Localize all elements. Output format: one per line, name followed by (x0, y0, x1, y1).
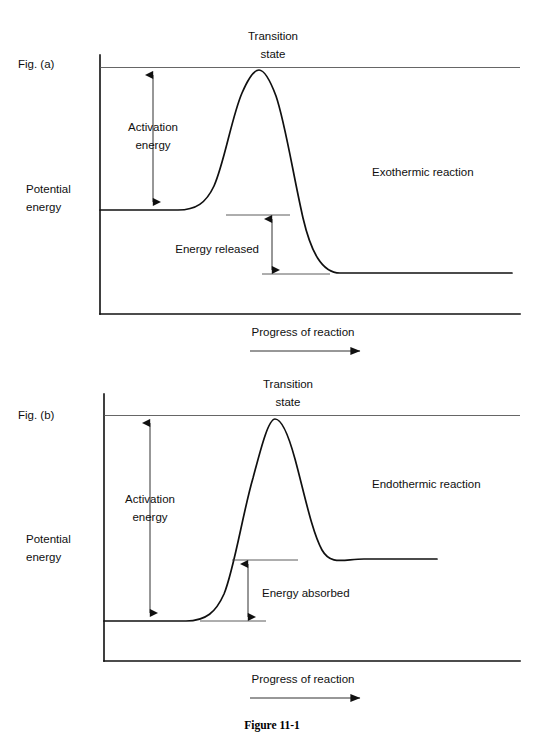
panel-a-activation-energy-label-line2: energy (135, 139, 170, 151)
panel-a-y-axis-label-line2: energy (26, 201, 61, 213)
panel-b-reaction-type-label: Endothermic reaction (372, 478, 481, 490)
panel-a-transition-state-label-line2: state (261, 48, 286, 60)
panel-b-activation-energy-label-line1: Activation (125, 493, 175, 505)
panel-b-y-axis-label-line1: Potential (26, 533, 71, 545)
potential-energy-diagram: Fig. (a) Transition state Activation ene… (0, 0, 545, 745)
figure-container: Fig. (a) Transition state Activation ene… (0, 0, 545, 745)
panel-a-label: Fig. (a) (18, 58, 55, 70)
panel-b-x-axis-label: Progress of reaction (252, 673, 355, 685)
panel-a-activation-energy-label-line1: Activation (128, 121, 178, 133)
figure-caption: Figure 11-1 (244, 719, 300, 732)
panel-b-transition-state-label-line1: Transition (263, 378, 313, 390)
panel-b: Fig. (b) Transition state Activation ene… (18, 378, 520, 698)
panel-b-energy-absorbed-label: Energy absorbed (262, 587, 350, 599)
panel-a-transition-state-label-line1: Transition (248, 30, 298, 42)
panel-b-y-axis-label-line2: energy (26, 551, 61, 563)
panel-b-label: Fig. (b) (18, 409, 55, 421)
panel-b-transition-state-label-line2: state (276, 396, 301, 408)
panel-a-energy-released-label: Energy released (175, 243, 259, 255)
panel-a-x-axis-label: Progress of reaction (252, 326, 355, 338)
panel-a-reaction-type-label: Exothermic reaction (372, 166, 474, 178)
panel-b-activation-energy-label-line2: energy (132, 511, 167, 523)
panel-a-y-axis-label-line1: Potential (26, 183, 71, 195)
panel-a: Fig. (a) Transition state Activation ene… (18, 30, 520, 351)
